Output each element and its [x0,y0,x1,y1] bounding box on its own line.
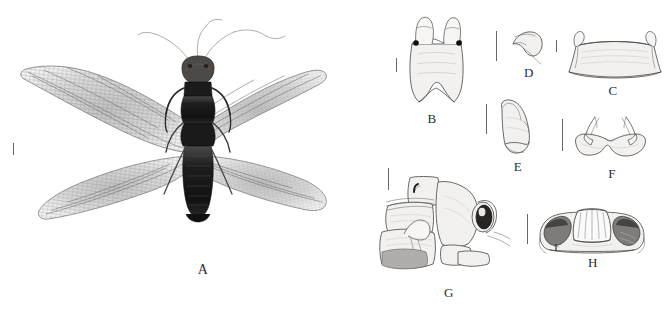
panel-f-drawing [572,114,650,164]
sclerotized-spot-left [413,40,419,46]
body [181,56,215,222]
panel-label-h: H [585,256,601,269]
panel-h: H [536,206,648,256]
scale-bar-e [486,104,487,134]
panel-d: D [508,28,552,66]
panel-label-f: F [604,167,620,180]
figure-plate: A B [0,0,668,318]
panel-label-a: A [195,263,211,277]
panel-d-drawing [508,28,552,66]
panel-label-g: G [441,286,457,299]
panel-b-drawing [400,14,472,110]
scale-bar-d [496,31,497,61]
scale-bar-a [13,143,14,155]
panel-a: A [0,0,340,318]
panel-b: B [400,14,472,110]
left-forewing [21,66,195,152]
scale-bar-b [396,58,397,72]
panel-g-drawing [376,176,516,284]
antennae [138,19,285,62]
scale-bar-f [562,119,563,151]
panel-e-drawing [496,98,544,160]
panel-f: F [572,114,650,164]
panel-label-c: C [605,84,621,97]
panel-label-e: E [510,160,526,173]
panel-label-b: B [424,112,440,125]
panel-c: C [566,26,664,82]
panel-g: G [376,176,516,284]
scale-bar-h [527,214,528,244]
scale-bar-g [388,168,389,190]
sclerotized-spot-right [456,40,462,46]
panel-label-d: D [521,66,537,79]
panel-h-drawing [536,206,648,256]
panel-c-drawing [566,26,664,82]
dark-sclerite [476,205,492,229]
scale-bar-c [556,40,557,52]
panel-e: E [496,98,544,160]
specimen-photograph [8,6,328,256]
